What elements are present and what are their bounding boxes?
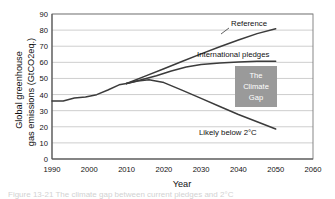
emissions-line-chart: 90 80 70 60 50 40 30 20 10 0 1990 2000 2… <box>0 0 335 199</box>
y-tick-label: 20 <box>40 123 48 132</box>
climate-gap-line-2: Climate <box>243 82 269 91</box>
y-axis-title-line1: Global greenhouse <box>14 51 24 129</box>
climate-gap-line-1: The <box>249 71 262 80</box>
x-tick-label: 2050 <box>267 165 284 174</box>
x-tick-label: 2030 <box>193 165 210 174</box>
figure-caption: Figure 13-21 The climate gap between cur… <box>8 190 308 199</box>
y-tick-label: 70 <box>40 42 48 51</box>
y-axis-title-line2: gas emissions (GtCO2eq.) <box>26 38 36 146</box>
x-axis-title: Year <box>173 179 192 189</box>
y-tick-label: 80 <box>40 26 48 35</box>
y-tick-label: 30 <box>40 107 48 116</box>
y-tick-label: 10 <box>40 139 48 148</box>
series-label-likely-below-2c: Likely below 2°C <box>199 128 257 137</box>
x-tick-label: 2010 <box>118 165 135 174</box>
series-label-international-pledges: International pledges <box>197 50 269 59</box>
x-tick-label: 2020 <box>155 165 172 174</box>
x-tick-label: 1990 <box>44 165 61 174</box>
figure-container: 90 80 70 60 50 40 30 20 10 0 1990 2000 2… <box>0 0 335 199</box>
y-tick-label: 50 <box>40 74 48 83</box>
y-tick-label: 60 <box>40 58 48 67</box>
x-tick-label: 2040 <box>230 165 247 174</box>
x-tick-label: 2000 <box>81 165 98 174</box>
climate-gap-line-3: Gap <box>249 93 263 102</box>
x-tick-label: 2060 <box>305 165 322 174</box>
y-tick-label: 40 <box>40 91 48 100</box>
series-label-reference: Reference <box>231 19 267 28</box>
y-tick-label: 0 <box>44 155 48 164</box>
y-tick-label: 90 <box>40 10 48 19</box>
